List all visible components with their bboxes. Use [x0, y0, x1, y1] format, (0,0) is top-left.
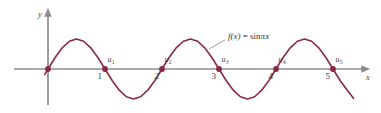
root-label-base: u — [108, 55, 112, 64]
annotation-leader-line — [209, 40, 225, 49]
x-tick-label-3: 3 — [212, 72, 217, 81]
x-tick-label-4: 4 — [269, 72, 274, 81]
function-equals-sin: = sin — [241, 31, 261, 41]
sine-graph-figure: y x f(x) = sinπx u11u22u33u44u55 — [0, 0, 381, 113]
root-label-subscript: 1 — [112, 59, 115, 65]
root-label-u1: u1 — [108, 56, 115, 64]
root-label-u2: u2 — [165, 56, 172, 64]
root-label-u5: u5 — [336, 56, 343, 64]
root-label-base: u — [336, 55, 340, 64]
function-annotation: f(x) = sinπx — [228, 32, 269, 41]
x-axis-label: x — [366, 73, 370, 82]
root-label-u3: u3 — [222, 56, 229, 64]
root-label-subscript: 2 — [169, 59, 172, 65]
y-axis-label: y — [38, 10, 42, 19]
root-point-dot — [102, 66, 108, 72]
root-point-dot — [273, 66, 279, 72]
root-label-subscript: 3 — [226, 59, 229, 65]
root-label-base: u — [279, 55, 283, 64]
root-point-dot — [216, 66, 222, 72]
root-label-subscript: 5 — [340, 59, 343, 65]
root-point-dot — [45, 66, 51, 72]
x-tick-label-1: 1 — [98, 72, 103, 81]
plot-canvas — [0, 0, 381, 113]
function-argument: (x) — [231, 31, 241, 41]
root-label-subscript: 4 — [283, 59, 286, 65]
x-tick-label-2: 2 — [155, 72, 160, 81]
function-pi-argument: x — [265, 31, 269, 41]
root-label-base: u — [165, 55, 169, 64]
root-label-u4: u4 — [279, 56, 286, 64]
root-point-dot — [330, 66, 336, 72]
root-label-base: u — [222, 55, 226, 64]
root-point-dot — [159, 66, 165, 72]
x-tick-label-5: 5 — [326, 72, 331, 81]
